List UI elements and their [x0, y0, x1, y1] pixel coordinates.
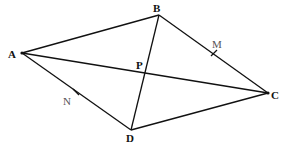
label-m: M [212, 38, 222, 50]
label-p: P [136, 59, 143, 71]
label-b: B [153, 2, 161, 14]
point-a [20, 51, 23, 54]
segment-da [22, 53, 131, 130]
label-n: N [63, 95, 71, 107]
label-d: D [126, 132, 134, 144]
segment-ab [22, 15, 159, 53]
diagonal-bd [131, 15, 159, 130]
geometry-diagram: A B C D P M N [0, 0, 283, 148]
segment-cd [131, 93, 268, 130]
quadrilateral-figure: A B C D P M N [0, 0, 283, 148]
point-c [266, 91, 269, 94]
label-a: A [8, 48, 16, 60]
label-c: C [271, 89, 279, 101]
